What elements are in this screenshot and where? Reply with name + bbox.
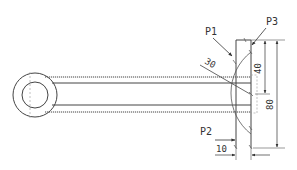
label-p1: P1 [205,26,217,37]
svg-text:40: 40 [253,63,263,74]
ring-end [13,72,57,118]
svg-text:80: 80 [265,99,275,110]
dimension-40: 40 [251,40,285,94]
technical-drawing: 30 P1 P3 P2 40 80 10 [0,0,297,170]
p1-arrow [213,38,232,56]
dimension-10: 10 [215,144,270,160]
label-p2: P2 [200,126,212,137]
label-p3: P3 [266,16,278,27]
rod [45,77,251,112]
p3-arrow [252,28,266,45]
svg-text:10: 10 [216,144,227,154]
dimension-80: 80 [253,41,285,148]
angle-line [200,65,250,94]
